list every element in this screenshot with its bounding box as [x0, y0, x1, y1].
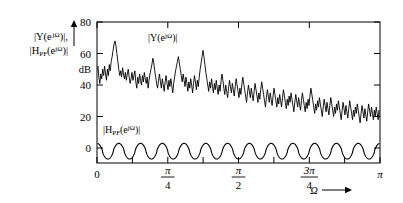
series-label-y-part1: |Y(e	[148, 32, 166, 44]
magnitude-spectrum-chart: 80 60 40 20 0 dB |Y(e jΩ)|, |HPF(ejΩ)| 0	[0, 0, 403, 203]
x-tick-label-pi-over-2: π 2	[232, 164, 246, 191]
curve-output-spectrum	[97, 41, 380, 123]
x-tick-num-1: π	[165, 164, 171, 176]
y-caption-part1: |Y(e	[34, 31, 52, 43]
series-label-h-part1: |H	[103, 124, 112, 135]
y-axis-caption: |Y(e jΩ)|, |HPF(ejΩ)|	[30, 20, 78, 58]
x-tick-num-2: π	[236, 164, 242, 176]
y-caption-sub: PF	[39, 50, 47, 58]
x-tick-labels: 0 π 4 π 2 3π 4 π	[94, 164, 383, 191]
y-caption-sup1: jΩ	[52, 31, 60, 39]
y-axis-arrow	[71, 20, 77, 46]
y-caption-part2a: |H	[30, 45, 40, 56]
y-tick-label-40: 40	[80, 79, 92, 91]
series-label-output-spectrum: |Y(ejΩ)|	[148, 32, 178, 44]
x-tick-label-pi-over-4: π 4	[161, 164, 175, 191]
y-caption-sup2: jΩ	[54, 45, 62, 53]
x-tick-label-0: 0	[94, 168, 100, 180]
series-label-h-sup: jΩ	[127, 124, 135, 132]
series-label-y-sup: jΩ	[164, 32, 172, 40]
series-label-h-end: )|	[135, 124, 140, 136]
x-tick-num-3: 3π	[303, 164, 316, 176]
y-tick-label-60: 60	[80, 48, 92, 60]
x-axis-label: Ω	[310, 185, 318, 196]
x-tick-den-1: 4	[165, 179, 171, 191]
svg-text:|Y(e jΩ)|,: |Y(e jΩ)|,	[34, 31, 68, 43]
x-tick-den-2: 2	[236, 179, 242, 191]
y-tick-labels: 80 60 40 20 0	[80, 16, 92, 154]
y-axis-unit-label: dB	[79, 64, 91, 75]
y-caption-end2: )|	[62, 45, 68, 57]
series-label-filter-response: |HPF(ejΩ)|	[103, 124, 140, 137]
y-caption-end1: )|,	[60, 31, 68, 43]
y-tick-label-0: 0	[86, 142, 92, 154]
series-label-y-end: )|	[172, 32, 177, 44]
series-label-h-sub: PF	[112, 129, 120, 137]
curve-filter-response	[97, 143, 380, 159]
x-tick-label-pi: π	[377, 168, 383, 180]
y-tick-label-20: 20	[80, 111, 92, 123]
y-tick-label-80: 80	[80, 16, 92, 28]
x-axis-caption: Ω	[310, 185, 352, 196]
figure-container: 80 60 40 20 0 dB |Y(e jΩ)|, |HPF(ejΩ)| 0	[0, 0, 403, 203]
svg-text:|HPF(ejΩ)|: |HPF(ejΩ)|	[30, 45, 68, 58]
